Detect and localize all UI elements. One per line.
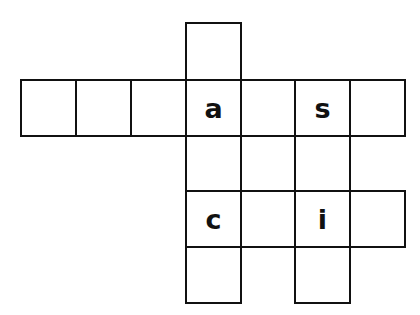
grid-cell[interactable]: a (185, 79, 242, 137)
grid-cell[interactable] (240, 135, 296, 192)
grid-cell[interactable] (240, 190, 296, 248)
grid-cell[interactable] (185, 135, 242, 192)
grid-cell[interactable] (130, 79, 187, 137)
crossword-grid: asci (0, 0, 420, 315)
grid-cell[interactable] (75, 79, 132, 137)
grid-cell[interactable]: s (294, 79, 351, 137)
grid-cell[interactable]: i (294, 190, 351, 248)
grid-cell[interactable] (294, 135, 351, 192)
grid-cell[interactable] (349, 190, 406, 248)
grid-cell[interactable]: c (185, 190, 242, 248)
grid-cell[interactable] (349, 79, 406, 137)
grid-cell[interactable] (185, 246, 242, 304)
grid-cell[interactable] (20, 79, 77, 137)
grid-cell[interactable] (294, 246, 351, 304)
grid-cell[interactable] (240, 79, 296, 137)
grid-cell[interactable] (185, 22, 242, 81)
